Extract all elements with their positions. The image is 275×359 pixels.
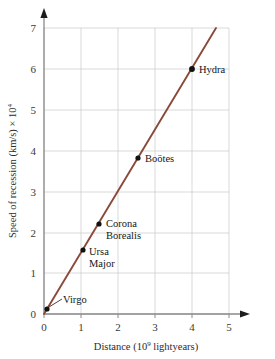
- y-tick-label-5: 5: [31, 104, 37, 116]
- y-tick-label-3: 3: [31, 186, 37, 198]
- point-label-virgo: Virgo: [63, 294, 87, 305]
- x-tick-label-5: 5: [226, 321, 232, 333]
- y-tick-label-0: 0: [31, 308, 37, 320]
- point-label-ursa-major-line1: Ursa: [89, 246, 109, 257]
- y-axis-title-main: Speed of recession (km/s) × 10: [7, 108, 19, 238]
- y-tick-label-7: 7: [31, 22, 37, 34]
- data-point-corona-borealis: [96, 221, 101, 226]
- y-axis-title-exponent: 4: [6, 104, 14, 108]
- x-tick-label-2: 2: [115, 321, 121, 333]
- x-axis-title-tail: lightyears): [151, 341, 199, 353]
- y-tick-label-1: 1: [31, 267, 37, 279]
- point-label-hydra: Hydra: [199, 64, 226, 75]
- point-label-corona-borealis-line1: Corona: [106, 218, 137, 229]
- data-point-virgo: [44, 306, 49, 311]
- y-tick-label-2: 2: [31, 227, 37, 239]
- point-labels: Virgo Ursa Major Corona Borealis Boötes …: [63, 64, 226, 305]
- y-tick-label-6: 6: [31, 63, 37, 75]
- x-axis-title-main: Distance (10: [94, 341, 147, 353]
- point-label-bootes: Boötes: [145, 153, 174, 164]
- y-axis: [40, 8, 47, 314]
- hubble-law-chart: 0 1 2 3 4 5 0 1 2 3 4 5 6 7: [0, 0, 275, 359]
- point-label-corona-borealis-line2: Borealis: [106, 230, 141, 241]
- data-point-hydra: [189, 66, 195, 72]
- data-point-bootes: [135, 155, 140, 160]
- x-tick-labels: 0 1 2 3 4 5: [41, 321, 232, 333]
- y-tick-labels: 0 1 2 3 4 5 6 7: [31, 22, 37, 320]
- data-point-ursa-major: [80, 247, 85, 252]
- point-label-ursa-major-line2: Major: [89, 258, 115, 269]
- x-tick-label-3: 3: [152, 321, 158, 333]
- x-axis: [44, 310, 250, 317]
- x-axis-title: Distance (109 lightyears): [94, 340, 199, 353]
- x-tick-label-0: 0: [41, 321, 47, 333]
- y-axis-title: Speed of recession (km/s) × 104: [6, 104, 19, 238]
- chart-canvas: 0 1 2 3 4 5 0 1 2 3 4 5 6 7: [0, 0, 275, 359]
- x-tick-label-1: 1: [78, 321, 84, 333]
- x-tick-label-4: 4: [189, 321, 195, 333]
- y-tick-label-4: 4: [31, 145, 37, 157]
